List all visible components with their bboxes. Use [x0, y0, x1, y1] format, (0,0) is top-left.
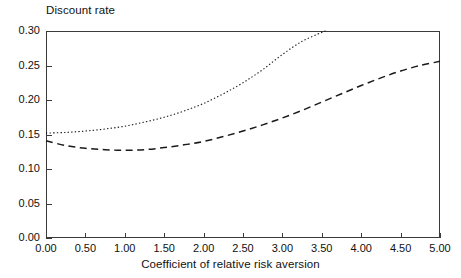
y-tick-label: 0.10 [4, 162, 40, 174]
data-series [46, 31, 440, 150]
discount-rate-chart: Discount rate Coefficient of relative ri… [0, 0, 461, 278]
x-tick-label: 2.00 [182, 242, 226, 254]
x-tick-label: 4.50 [379, 242, 423, 254]
y-tick-label: 0.25 [4, 59, 40, 71]
y-tick-label: 0.30 [4, 24, 40, 36]
x-tick-label: 1.50 [142, 242, 186, 254]
x-axis-label: Coefficient of relative risk aversion [0, 258, 461, 270]
x-tick-label: 1.00 [103, 242, 147, 254]
axis-frame [47, 32, 440, 238]
x-tick-label: 4.00 [339, 242, 383, 254]
y-tick-label: 0.20 [4, 93, 40, 105]
y-tick-label: 0.15 [4, 128, 40, 140]
x-tick-label: 5.00 [418, 242, 461, 254]
x-tick-label: 0.00 [24, 242, 68, 254]
dashed-curve [46, 61, 440, 150]
plot-canvas [0, 0, 461, 278]
axis-ticks [46, 32, 441, 239]
y-tick-label: 0.05 [4, 197, 40, 209]
x-tick-label: 3.00 [260, 242, 304, 254]
x-tick-label: 2.50 [221, 242, 265, 254]
x-tick-label: 0.50 [63, 242, 107, 254]
y-axis-label: Discount rate [46, 4, 115, 16]
x-tick-label: 3.50 [300, 242, 344, 254]
